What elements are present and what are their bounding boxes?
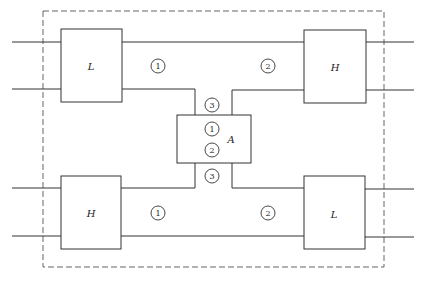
marker-top-left-channel: 1 — [155, 62, 160, 71]
block-label-top-right: H — [330, 62, 340, 73]
marker-bottom-left-channel: 1 — [155, 209, 160, 218]
top-left-connector — [122, 89, 195, 115]
marker-center-bottom: 3 — [209, 172, 214, 181]
marker-bottom-right-channel: 2 — [265, 209, 270, 218]
marker-center-inner-2: 2 — [209, 146, 214, 155]
block-label-center: A — [226, 134, 234, 145]
bottom-right-connector — [232, 163, 304, 188]
block-label-top-left: L — [87, 61, 95, 72]
marker-top-right-channel: 2 — [265, 62, 270, 71]
marker-center-inner-1: 1 — [209, 125, 214, 134]
block-label-bottom-left: H — [86, 208, 96, 219]
top-right-connector — [232, 90, 304, 115]
marker-center-top: 3 — [209, 101, 214, 110]
block-label-bottom-right: L — [330, 209, 338, 220]
block-diagram: L H A H L 1 2 3 1 2 3 1 2 — [0, 0, 424, 281]
bottom-left-connector — [121, 163, 195, 188]
